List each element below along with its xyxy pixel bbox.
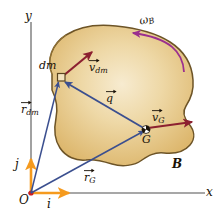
r-dm-label: rdm [21,100,39,117]
j-hat-label: j [15,158,19,170]
origin-label: O [19,194,29,206]
v-G-subscript: G [158,116,164,125]
r-dm-arrow [31,82,59,193]
body-label-B: B [172,158,182,170]
v-G-label: vG [152,108,165,125]
v-dm-subscript: dm [95,66,108,75]
vector-arrow-overbar [106,89,117,94]
vector-arrow-overbar [152,108,163,113]
vector-arrow-overbar [89,58,100,63]
r-dm-subscript: dm [26,108,39,117]
G-label: G [142,134,151,145]
dm-label: dm [39,60,56,71]
r-G-subscript: G [89,176,95,185]
figure-canvas: y x O i j dm G B rdm rG [0,0,221,220]
v-dm-label: vdm [89,58,108,75]
vector-arrow-overbar [84,168,95,173]
dm-marker [58,74,66,82]
r-G-label: rG [84,168,96,185]
i-hat-label: i [47,198,51,210]
vector-arrow-overbar [21,100,32,105]
x-axis-label: x [206,186,213,198]
q-label: q [106,89,115,104]
y-axis-label: y [25,10,32,22]
